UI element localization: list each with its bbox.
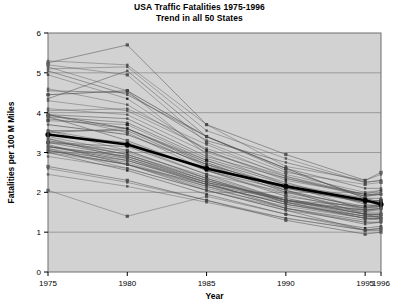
series-marker (126, 181, 128, 183)
y-tick-label: 2 (37, 188, 42, 197)
series-marker (126, 104, 128, 106)
series-marker (126, 127, 128, 129)
series-marker (126, 66, 128, 68)
line-chart-plot: 0123456 197519801985199019951996 Fatalit… (0, 0, 399, 305)
series-marker (285, 161, 287, 163)
series-marker (205, 135, 207, 137)
series-marker (205, 195, 208, 198)
series-marker (126, 185, 128, 187)
series-marker (364, 193, 366, 195)
y-tick-label: 1 (37, 228, 42, 237)
series-marker (284, 195, 287, 198)
series-marker (126, 163, 128, 165)
x-tick-label: 1985 (198, 279, 216, 288)
series-marker (364, 205, 366, 207)
series-marker (126, 43, 129, 46)
series-marker (126, 133, 128, 135)
series-marker (285, 157, 287, 159)
series-marker (126, 117, 128, 119)
series-marker (285, 173, 287, 175)
series-marker (126, 149, 128, 151)
chart-container: USA Traffic Fatalities 1975-1996 Trend i… (0, 0, 399, 305)
series-marker (285, 167, 287, 169)
y-tick-label: 6 (37, 29, 42, 38)
average-marker (363, 198, 368, 203)
y-tick-label: 4 (37, 109, 42, 118)
x-tick-label: 1980 (118, 279, 136, 288)
series-marker (126, 153, 128, 155)
y-tick-label: 3 (37, 149, 42, 158)
series-marker (284, 153, 287, 156)
series-marker (285, 207, 287, 209)
series-marker (205, 139, 207, 141)
series-marker (205, 179, 207, 181)
series-marker (364, 233, 367, 236)
series-marker (364, 209, 366, 211)
series-marker (205, 123, 208, 126)
series-marker (285, 191, 287, 193)
series-marker (205, 173, 208, 176)
series-marker (285, 199, 287, 201)
series-marker (364, 229, 367, 232)
series-marker (285, 179, 287, 181)
series-marker (126, 92, 128, 94)
series-marker (126, 70, 128, 72)
series-marker (126, 159, 128, 161)
average-marker (204, 166, 209, 171)
x-axis: 197519801985199019951996 (39, 272, 390, 288)
series-marker (364, 187, 366, 189)
series-marker (126, 167, 128, 169)
series-marker (126, 113, 128, 115)
y-axis-title: Fatalities per 100 M Miles (6, 101, 16, 203)
series-marker (126, 73, 129, 76)
x-tick-label: 1996 (372, 279, 390, 288)
series-marker (126, 215, 129, 218)
series-marker (205, 163, 207, 165)
series-marker (205, 129, 207, 131)
average-marker (283, 184, 288, 189)
series-marker (205, 183, 207, 185)
x-tick-label: 1975 (39, 279, 57, 288)
series-marker (126, 109, 128, 111)
y-axis: 0123456 (37, 29, 48, 277)
series-marker (126, 123, 129, 126)
average-marker (125, 142, 130, 147)
series-marker (126, 139, 129, 142)
series-marker (205, 199, 207, 201)
series-marker (284, 213, 287, 216)
series-marker (285, 203, 287, 205)
x-tick-label: 1990 (277, 279, 295, 288)
series-marker (126, 98, 128, 100)
y-tick-label: 0 (37, 268, 42, 277)
series-marker (364, 181, 366, 183)
series-marker (364, 223, 366, 225)
series-marker (285, 217, 287, 219)
x-axis-title: Year (206, 291, 225, 301)
series-marker (205, 149, 207, 151)
y-tick-label: 5 (37, 69, 42, 78)
series-marker (364, 215, 366, 217)
